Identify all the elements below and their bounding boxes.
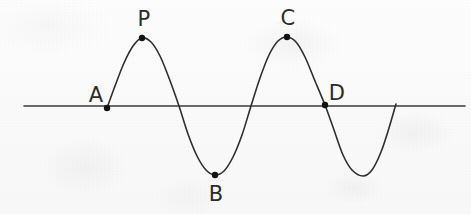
point-marker-p (139, 35, 145, 41)
point-label-d: D (329, 83, 345, 104)
point-label-p: P (138, 9, 151, 30)
point-marker-c (284, 34, 290, 40)
point-label-a: A (89, 85, 104, 106)
point-marker-a (104, 105, 110, 111)
point-marker-b (212, 172, 218, 178)
point-label-c: C (281, 8, 296, 29)
sine-wave-figure: APBCD (0, 0, 471, 214)
point-marker-d (322, 102, 328, 108)
sine-wave-plot (0, 0, 471, 214)
point-label-b: B (209, 184, 224, 205)
